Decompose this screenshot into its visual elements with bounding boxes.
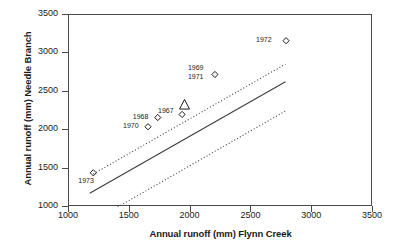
data-point-label: 1973 (78, 177, 94, 184)
data-point-marker (283, 38, 289, 44)
data-point-marker (155, 114, 161, 120)
data-point-label: 1968 (133, 113, 149, 120)
y-axis-tick-label: 1000 (14, 200, 58, 210)
y-axis-tick-label: 2000 (14, 123, 58, 133)
data-point-marker (212, 71, 218, 77)
x-axis-tick-label: 2000 (163, 210, 217, 220)
data-point-marker (179, 111, 185, 117)
regression-line (90, 82, 286, 193)
y-axis-tick-label: 3500 (14, 8, 58, 18)
x-axis-tick-label: 1500 (102, 210, 156, 220)
x-axis-tick-label: 3500 (345, 210, 393, 220)
x-axis-title: Annual runoff (mm) Flynn Creek (68, 228, 373, 239)
data-point-label: 1970 (123, 122, 139, 129)
data-point-label: 1967 (158, 107, 174, 114)
mean-point-marker (180, 99, 190, 109)
data-point-marker (90, 170, 96, 176)
x-axis-tick-label: 2500 (223, 210, 277, 220)
lower-confidence-band (118, 111, 286, 207)
scatter-plot-figure: Annual runoff (mm) Needle Branch Annual … (0, 0, 393, 251)
plot-area (68, 14, 372, 206)
y-axis-tick-label: 2500 (14, 85, 58, 95)
data-point-label: 1972 (256, 36, 272, 43)
data-point-label: 1971 (188, 73, 204, 80)
data-point-marker (145, 124, 151, 130)
y-axis-title: Annual runoff (mm) Needle Branch (22, 14, 33, 204)
y-axis-tick-label: 3000 (14, 46, 58, 56)
data-point-label: 1969 (188, 64, 204, 71)
upper-confidence-band (93, 64, 285, 174)
x-axis-tick-label: 1000 (41, 210, 95, 220)
plot-svg (69, 15, 373, 207)
y-axis-tick-label: 1500 (14, 162, 58, 172)
x-axis-tick-label: 3000 (284, 210, 338, 220)
